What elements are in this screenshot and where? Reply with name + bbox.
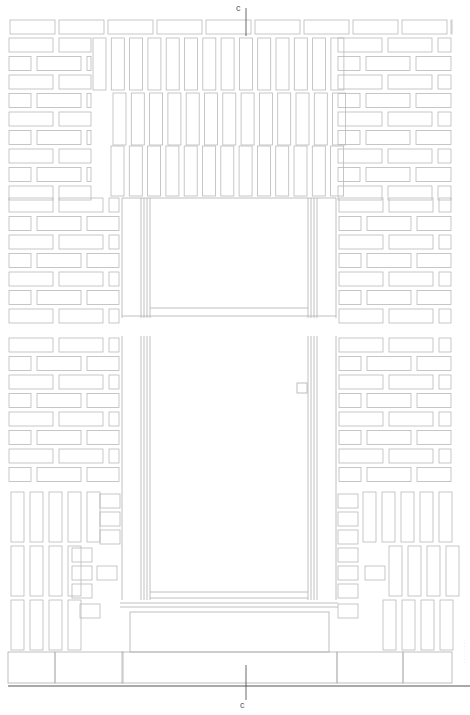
brick [339, 291, 361, 305]
brick [221, 146, 234, 196]
brick [37, 291, 81, 305]
brick [416, 131, 451, 145]
brick [109, 375, 119, 389]
brick [100, 512, 120, 526]
side-note: · · · · · · · · [462, 640, 468, 695]
brick [259, 93, 272, 145]
section-marker-bottom: c [240, 700, 245, 710]
brick [337, 652, 403, 683]
brick [339, 309, 383, 323]
brick [49, 492, 62, 542]
brick [185, 38, 198, 90]
brick [59, 235, 103, 249]
brick [427, 546, 440, 596]
facade-elevation [0, 0, 470, 715]
brick [439, 235, 451, 249]
brick [205, 93, 218, 145]
brick [11, 546, 24, 596]
brick [72, 548, 92, 562]
brick [339, 375, 383, 389]
brick [37, 131, 81, 145]
brick [109, 412, 119, 426]
brick [401, 492, 414, 542]
brick [389, 235, 433, 249]
brick [9, 75, 53, 89]
brick [339, 394, 361, 408]
brick [367, 431, 411, 445]
brick [389, 375, 433, 389]
brick [438, 75, 451, 89]
brick [389, 338, 433, 352]
brick [9, 131, 31, 145]
brick [278, 93, 291, 145]
brick [97, 566, 117, 580]
brick [72, 566, 92, 580]
brick [87, 431, 119, 445]
brick [9, 394, 31, 408]
brick [131, 93, 144, 145]
brick [417, 291, 451, 305]
brick [366, 168, 410, 182]
brick [331, 146, 344, 196]
brick [366, 57, 410, 71]
brick [438, 149, 451, 163]
brick [389, 309, 433, 323]
brick [49, 546, 62, 596]
brick [416, 94, 451, 108]
brick [314, 93, 327, 145]
brick [9, 235, 53, 249]
brick [366, 131, 410, 145]
brick [59, 75, 91, 89]
brick [37, 468, 81, 482]
brick [109, 449, 119, 463]
brick [37, 357, 81, 371]
brick [37, 254, 81, 268]
brick [150, 93, 163, 145]
brick [9, 291, 31, 305]
brick [130, 38, 143, 90]
brick [206, 20, 251, 34]
brick [239, 38, 252, 90]
brick [439, 492, 452, 542]
brick [258, 38, 271, 90]
brick [403, 652, 452, 683]
brick [9, 375, 53, 389]
brick [30, 600, 43, 650]
brick [439, 449, 451, 463]
brick [438, 112, 451, 126]
brick [382, 492, 395, 542]
brick [389, 272, 433, 286]
brick [100, 494, 120, 508]
brick [87, 468, 119, 482]
brick [9, 309, 53, 323]
brick [9, 38, 53, 52]
brick [8, 652, 55, 683]
brick [55, 652, 123, 683]
brick [389, 412, 433, 426]
brick [417, 254, 451, 268]
brick [59, 38, 91, 52]
brick [166, 38, 179, 90]
brick [111, 146, 124, 196]
brick [87, 94, 91, 108]
brick [130, 612, 329, 652]
brick [9, 357, 31, 371]
brick [339, 338, 383, 352]
brick [37, 394, 81, 408]
brick [59, 149, 91, 163]
brick [339, 272, 383, 286]
brick [68, 492, 81, 542]
brick [367, 291, 411, 305]
brick [109, 198, 119, 212]
brick [276, 146, 289, 196]
brick [420, 492, 433, 542]
brick [9, 431, 31, 445]
brick [9, 168, 31, 182]
brick [59, 272, 103, 286]
brick [338, 149, 382, 163]
brick [108, 20, 153, 34]
brick [331, 38, 344, 90]
brick [367, 254, 411, 268]
brick [9, 149, 53, 163]
elevation-drawing: c c · · · · · · · · [0, 0, 470, 715]
